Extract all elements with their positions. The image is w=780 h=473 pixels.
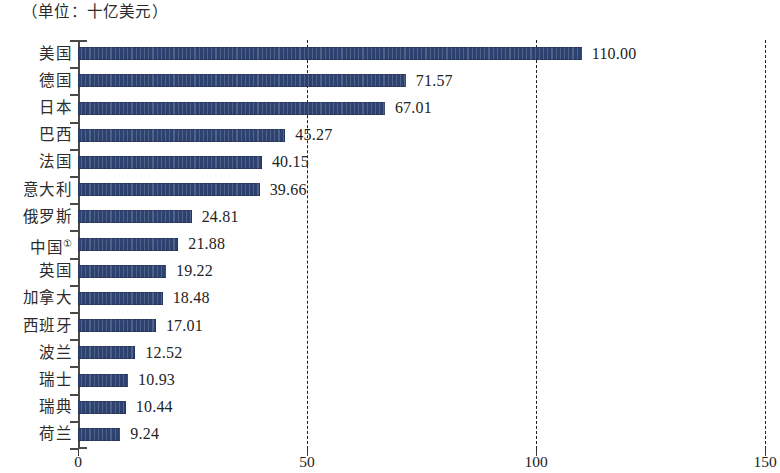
bar-value-label-10: 17.01 [166,318,203,334]
bar-value-label-6: 24.81 [202,209,239,225]
bar-3 [78,129,285,142]
category-label-14: 荷兰 [39,425,72,443]
bar-5 [78,183,260,196]
category-label-12: 瑞士 [39,371,72,389]
category-tick-3 [70,122,78,124]
category-label-13: 瑞典 [39,398,72,416]
category-tick-0 [70,40,78,42]
category-label-2: 日本 [39,99,72,117]
bar-value-label-12: 10.93 [138,372,175,388]
x-axis-tick-label-150: 150 [753,454,776,470]
bar-value-label-3: 45.27 [295,127,332,143]
bar-8 [78,265,166,278]
x-axis-tick-label-0: 0 [74,454,82,470]
gridline-150 [765,40,766,449]
bar-2 [78,102,385,115]
bar-value-label-0: 110.00 [592,46,637,62]
bar-6 [78,210,192,223]
category-tick-6 [70,203,78,205]
bar-4 [78,156,262,169]
category-label-4: 法国 [39,153,72,171]
axis-cap-top [78,40,87,42]
bar-value-label-9: 18.48 [173,290,210,306]
category-label-7: 中国① [30,235,72,257]
bar-value-label-8: 19.22 [176,263,213,279]
category-tick-8 [70,258,78,260]
category-label-8: 英国 [39,262,72,280]
bar-14 [78,428,120,441]
category-tick-9 [70,285,78,287]
category-tick-14 [70,421,78,423]
category-tick-11 [70,339,78,341]
x-axis-tick-label-100: 100 [524,454,547,470]
x-axis-tick-label-50: 50 [299,454,315,470]
unit-caption: （单位：十亿美元） [22,2,168,22]
bar-value-label-13: 10.44 [136,399,173,415]
category-label-11: 波兰 [39,344,72,362]
bar-0 [78,47,582,60]
category-tick-1 [70,67,78,69]
category-label-0: 美国 [39,45,72,63]
category-tick-10 [70,312,78,314]
bar-value-label-7: 21.88 [188,236,225,252]
category-tick-7 [70,230,78,232]
category-tick-end [70,448,78,450]
bar-value-label-5: 39.66 [270,182,307,198]
category-label-10: 西班牙 [23,317,72,335]
bar-13 [78,401,126,414]
category-tick-12 [70,366,78,368]
category-tick-2 [70,94,78,96]
bar-value-label-11: 12.52 [145,345,182,361]
category-label-1: 德国 [39,72,72,90]
bar-value-label-2: 67.01 [395,100,432,116]
bar-value-label-4: 40.15 [272,154,309,170]
bar-chart: （单位：十亿美元） 050100150 美国德国日本巴西法国意大利俄罗斯中国①英… [0,0,780,473]
category-label-3: 巴西 [39,126,72,144]
bar-1 [78,74,406,87]
gridline-100 [536,40,537,449]
category-label-6: 俄罗斯 [23,208,72,226]
axis-cap-bottom [78,447,87,449]
bar-11 [78,346,135,359]
bar-9 [78,292,163,305]
bar-value-label-14: 9.24 [130,426,159,442]
bar-value-label-1: 71.57 [416,73,453,89]
category-label-5: 意大利 [23,181,72,199]
bar-7 [78,238,178,251]
category-tick-5 [70,176,78,178]
footnote-marker: ① [63,238,72,249]
bar-12 [78,374,128,387]
category-tick-13 [70,394,78,396]
category-label-9: 加拿大 [23,289,72,307]
bar-10 [78,319,156,332]
category-tick-4 [70,149,78,151]
